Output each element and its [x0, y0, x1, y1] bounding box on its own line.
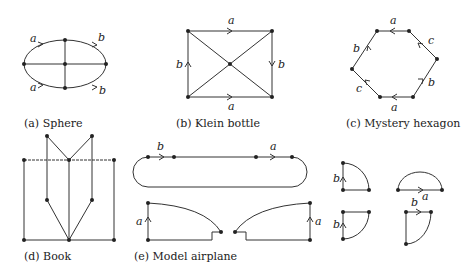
- mystery-hexagon-diagram: a c b b c a: [350, 14, 439, 114]
- figure-canvas: a b a b a b b a: [0, 0, 468, 274]
- edge-label: b: [99, 84, 106, 97]
- edge-label: a: [315, 215, 322, 228]
- caption-model-airplane: (e) Model airplane: [134, 250, 237, 263]
- edge-label: c: [428, 34, 434, 47]
- edge-label: a: [30, 81, 37, 94]
- edge-label: b: [333, 172, 340, 185]
- model-airplane-diagram: b a a a b b: [133, 140, 444, 246]
- book-diagram: [22, 134, 116, 242]
- edge-label: a: [391, 101, 398, 114]
- edge-label: b: [333, 218, 340, 231]
- edge-label: a: [30, 32, 37, 45]
- caption-book: (d) Book: [24, 250, 71, 263]
- edge-label: b: [176, 58, 183, 71]
- edge-label: b: [157, 140, 164, 153]
- edge-label: a: [136, 215, 143, 228]
- edge-label: b: [428, 76, 435, 89]
- edge-label: a: [228, 14, 235, 27]
- edge-label: b: [411, 196, 418, 209]
- sphere-diagram: a b a b: [22, 31, 108, 97]
- edge-label: b: [278, 58, 285, 71]
- edge-label: a: [270, 140, 277, 153]
- klein-bottle-diagram: a b b a: [176, 14, 285, 113]
- edge-label: a: [390, 14, 397, 27]
- edge-label: a: [422, 190, 429, 203]
- edge-label: c: [356, 82, 362, 95]
- edge-label: b: [98, 31, 105, 44]
- edge-label: a: [228, 100, 235, 113]
- caption-mystery-hexagon: (c) Mystery hexagon: [346, 117, 460, 130]
- caption-sphere: (a) Sphere: [24, 117, 83, 130]
- edge-label: b: [353, 42, 360, 55]
- caption-klein-bottle: (b) Klein bottle: [176, 117, 260, 130]
